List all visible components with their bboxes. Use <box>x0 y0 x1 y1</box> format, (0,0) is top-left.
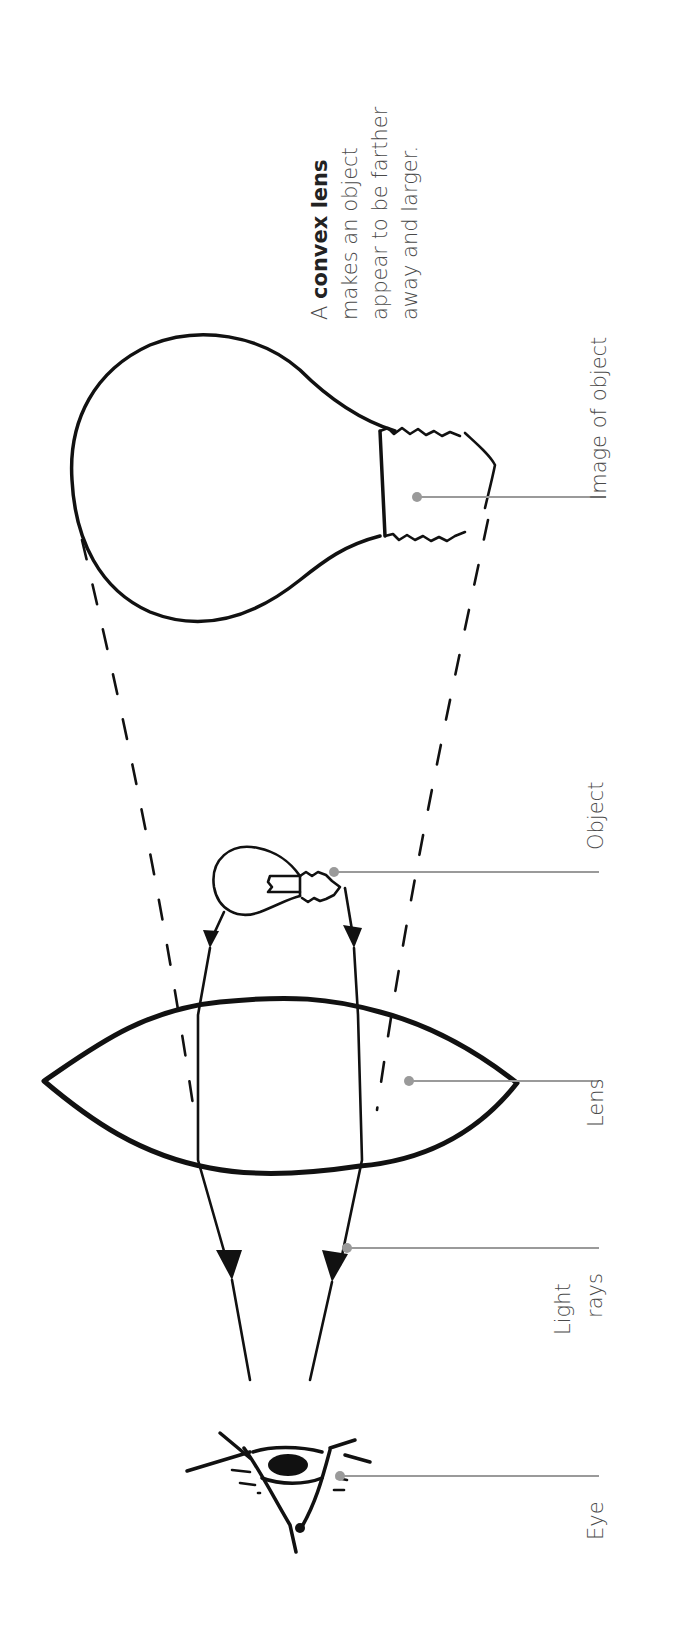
caption-prefix: A <box>308 299 332 320</box>
label-light-rays-line1: Light <box>551 1283 575 1335</box>
caption-line3: appear to be farther <box>368 106 392 320</box>
caption: A convex lens makes an object appear to … <box>308 106 422 320</box>
caption-bold-term: convex lens <box>308 159 332 299</box>
virtual-ray-lines <box>82 520 488 1125</box>
convex-lens-diagram: Image of object Object Lens Light rays E… <box>0 0 697 1628</box>
convex-lens <box>44 998 517 1173</box>
label-eye: Eye <box>584 1501 608 1540</box>
eye <box>187 1433 370 1552</box>
label-light-rays-line2: rays <box>583 1273 607 1318</box>
label-image-of-object: Image of object <box>587 337 611 500</box>
object-bulb <box>213 847 340 915</box>
labels: Image of object Object Lens Light rays E… <box>551 337 611 1540</box>
label-object: Object <box>584 782 608 850</box>
caption-line2: makes an object <box>338 147 362 320</box>
image-of-object-bulb <box>72 335 495 622</box>
caption-line4: away and larger. <box>398 146 422 320</box>
label-lens: Lens <box>584 1078 608 1127</box>
caption-line1: A convex lens <box>308 159 332 320</box>
light-rays <box>198 888 362 1380</box>
